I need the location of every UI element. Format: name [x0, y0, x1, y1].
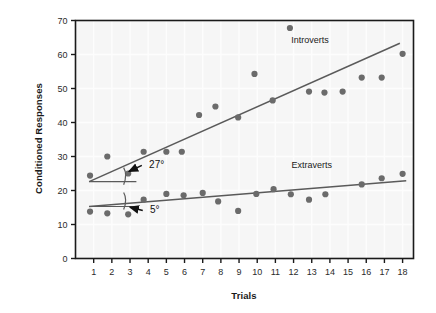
x-tick-labels: 123456789101112131415161718: [91, 267, 407, 277]
data-point-extraverts: [141, 197, 147, 203]
scatter-plot-canvas: 010203040506070 123456789101112131415161…: [0, 0, 436, 313]
data-point-introverts: [306, 88, 312, 94]
data-point-extraverts: [399, 171, 405, 177]
y-tick-label: 0: [62, 254, 67, 264]
plot-background: [76, 21, 414, 259]
plot-area: [76, 21, 414, 259]
data-point-introverts: [270, 97, 276, 103]
data-point-introverts: [321, 89, 327, 95]
y-tick-label: 70: [57, 16, 67, 26]
data-point-introverts: [340, 88, 346, 94]
x-tick-label: 3: [128, 267, 133, 277]
y-tick-labels: 010203040506070: [57, 16, 67, 264]
x-tick-label: 9: [237, 267, 242, 277]
x-tick-label: 12: [289, 267, 299, 277]
data-point-extraverts: [306, 197, 312, 203]
introverts-angle-label: 27°: [149, 159, 164, 170]
data-point-extraverts: [270, 186, 276, 192]
data-point-introverts: [379, 75, 385, 81]
y-tick-label: 30: [57, 152, 67, 162]
data-point-introverts: [87, 172, 93, 178]
data-point-introverts: [359, 75, 365, 81]
x-tick-label: 8: [218, 267, 223, 277]
data-point-extraverts: [163, 191, 169, 197]
x-tick-label: 4: [146, 267, 151, 277]
data-point-extraverts: [288, 191, 294, 197]
x-tick-label: 17: [379, 267, 389, 277]
extraverts-angle-label: 5°: [150, 204, 160, 215]
data-point-introverts: [212, 103, 218, 109]
y-tick-label: 40: [57, 118, 67, 128]
series-label-introverts: Introverts: [291, 35, 329, 45]
data-point-extraverts: [359, 181, 365, 187]
series-label-extraverts: Extraverts: [291, 160, 332, 170]
data-point-extraverts: [322, 191, 328, 197]
y-tick-label: 10: [57, 220, 67, 230]
y-tick-label: 20: [57, 186, 67, 196]
x-tick-label: 11: [271, 267, 280, 277]
y-tick-label: 60: [57, 50, 67, 60]
x-tick-label: 16: [361, 267, 371, 277]
x-tick-label: 13: [307, 267, 317, 277]
data-point-extraverts: [200, 190, 206, 196]
x-tick-label: 2: [109, 267, 114, 277]
data-point-introverts: [141, 149, 147, 155]
data-point-extraverts: [125, 211, 131, 217]
x-tick-label: 10: [252, 267, 262, 277]
x-tick-label: 15: [343, 267, 353, 277]
data-point-introverts: [399, 51, 405, 57]
data-point-introverts: [196, 112, 202, 118]
data-point-extraverts: [87, 208, 93, 214]
x-tick-label: 1: [91, 267, 96, 277]
data-point-introverts: [104, 153, 110, 159]
x-tick-label: 7: [200, 267, 205, 277]
data-point-extraverts: [181, 192, 187, 198]
y-tick-label: 50: [57, 84, 67, 94]
x-tick-label: 6: [182, 267, 187, 277]
x-tick-label: 14: [325, 267, 335, 277]
data-point-extraverts: [379, 175, 385, 181]
data-point-introverts: [287, 25, 293, 31]
chart-figure: Conditioned Responses Trials 01020304050…: [0, 0, 436, 313]
data-point-extraverts: [215, 198, 221, 204]
data-point-introverts: [251, 71, 257, 77]
data-point-introverts: [163, 149, 169, 155]
data-point-extraverts: [253, 191, 259, 197]
data-point-extraverts: [104, 210, 110, 216]
data-point-introverts: [179, 149, 185, 155]
x-tick-label: 5: [164, 267, 169, 277]
x-tick-label: 18: [398, 267, 408, 277]
data-point-extraverts: [235, 208, 241, 214]
data-point-introverts: [235, 114, 241, 120]
